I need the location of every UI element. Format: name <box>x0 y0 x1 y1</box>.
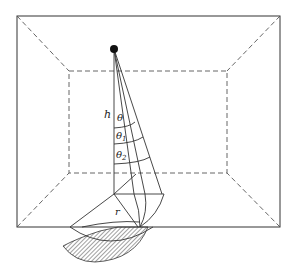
label-theta2: θ2 <box>116 149 127 162</box>
back-wall-dashed <box>17 16 280 227</box>
label-r: r <box>115 206 121 217</box>
hatched-region <box>63 227 148 262</box>
label-theta1: θ1 <box>116 130 127 143</box>
light-source-dot <box>110 45 118 53</box>
outer-room-frame <box>17 16 280 227</box>
label-h: h <box>104 108 111 121</box>
room-light-diagram: h θ θ1 θ2 r <box>0 0 293 267</box>
label-theta: θ <box>117 112 123 123</box>
